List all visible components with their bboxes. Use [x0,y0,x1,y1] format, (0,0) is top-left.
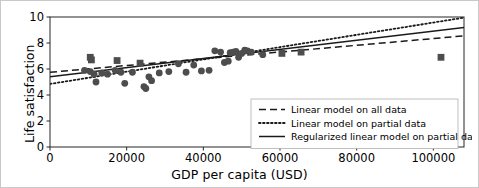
data-point-circle [190,62,197,69]
data-point-circle [165,68,172,75]
data-point-circle [211,47,218,54]
x-tick-label: 80000 [338,151,375,165]
data-point-circle [81,67,88,74]
legend-label: Regularized linear model on partial data [291,131,472,142]
legend-label: Linear model on partial data [291,118,426,129]
data-point-circle [206,67,213,74]
y-tick-label: 6 [37,62,44,76]
data-point-circle [93,79,100,86]
data-point-circle [248,49,255,56]
data-point-square [298,49,305,56]
data-point-square [88,57,95,64]
x-tick-label: 20000 [108,151,145,165]
data-point-circle [104,71,111,78]
regression-line-dashed [50,36,464,72]
x-tick-label: 0 [46,151,53,165]
y-tick-label: 2 [37,114,44,128]
data-point-circle [98,70,105,77]
y-tick-label: 10 [29,10,44,24]
y-tick-label: 0 [37,140,44,154]
data-point-square [114,57,121,64]
data-point-circle [148,77,155,84]
data-point-circle [183,69,190,76]
data-point-circle [175,60,182,67]
plot-area: 0200004000060000800001000000246810Linear… [7,5,472,183]
data-point-circle [129,69,136,76]
x-tick-label: 60000 [262,151,299,165]
x-tick-label: 100000 [411,151,455,165]
x-axis-label: GDP per capita (USD) [7,167,472,182]
data-point-circle [198,68,205,75]
data-point-circle [142,85,149,92]
x-tick-label: 40000 [185,151,222,165]
data-point-circle [217,49,224,56]
data-point-square [137,60,144,67]
data-point-circle [121,80,128,87]
regression-line-dotted [50,18,464,84]
legend-label: Linear model on all data [291,104,407,115]
data-point-square [438,54,445,61]
data-point-circle [91,71,98,78]
y-tick-label: 4 [37,88,44,102]
figure-frame: Life satisfaction 0200004000060000800001… [0,0,479,188]
y-tick-label: 8 [37,36,44,50]
chart-figure: Life satisfaction 0200004000060000800001… [7,5,472,183]
data-point-square [279,50,286,57]
data-point-circle [259,51,266,58]
data-point-circle [118,69,125,76]
data-point-circle [225,58,232,65]
data-point-circle [156,70,163,77]
